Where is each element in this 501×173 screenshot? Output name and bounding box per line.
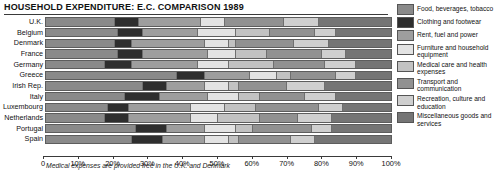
legend-item: Transport and communication [397,78,501,93]
bar-segment [305,93,336,100]
bar-segment [356,72,391,79]
bar-row: Luxembourg [0,102,396,112]
stacked-bar [45,60,392,69]
bar-segment [239,136,291,143]
bar-segment [284,18,319,25]
bar-segment [205,72,250,79]
axis-tick-label: 80% [314,159,329,168]
bar-segment [250,72,278,79]
axis-tick-label: 70% [279,159,294,168]
bar-segment [208,93,239,100]
bar-segment [46,82,143,89]
bar-segment [274,61,326,68]
legend-swatch [397,78,414,89]
bar-segment [236,29,271,36]
bar-segment [319,18,391,25]
bar-segment [229,40,236,47]
legend-item: Recreation, culture and education [397,95,501,110]
bar-row-label: Belgium [0,28,45,38]
bar-segment [315,136,391,143]
bar-segment [277,72,291,79]
bar-segment [167,82,205,89]
bar-segment [239,93,260,100]
axis-tick-label: 0 [41,159,45,168]
bar-row-label: Denmark [0,38,45,48]
bar-segment [239,82,287,89]
bar-segment [143,82,167,89]
bar-row: Belgium [0,28,396,38]
bar-segment [143,50,209,57]
bar-segment [332,114,391,121]
bar-row-label: Portugal [0,124,45,134]
bar-segment [236,40,295,47]
bar-segment [46,61,105,68]
bar-segment [298,114,333,121]
bar-row: Italy [0,91,396,101]
legend-item: Furniture and household equipment [397,44,501,59]
bar-segment [346,50,391,57]
bar-segment [315,29,336,36]
legend-swatch [397,30,414,41]
stacked-bar [45,17,392,26]
bar-segment [294,40,329,47]
bar-segment [205,82,229,89]
bar-segment [46,72,177,79]
legend-swatch [397,17,414,28]
bar-segment [132,40,204,47]
bar-row: Portugal [0,123,396,133]
legend-label: Clothing and footwear [417,17,481,25]
bar-segment [319,104,343,111]
bar-segment [108,104,129,111]
stacked-bar [45,124,392,133]
bar-segment [191,114,219,121]
bar-row-label: Spain [0,134,45,144]
bar-segment [205,125,236,132]
stacked-bar [45,103,392,112]
bar-segment [236,50,267,57]
bar-segment [325,82,391,89]
stacked-bar [45,113,392,122]
bar-segment [46,136,132,143]
bar-segment [325,61,356,68]
bar-segment [229,82,239,89]
bar-segment [46,104,108,111]
bar-segment [260,93,305,100]
bar-row-label: Germany [0,60,45,70]
bar-segment [125,93,160,100]
bar-segment [291,136,315,143]
bar-segment [105,114,129,121]
bar-segment [287,82,325,89]
bar-row: France [0,49,396,59]
bar-segment [205,136,229,143]
bar-segment [160,93,208,100]
stacked-bar [45,135,392,144]
bar-segment [343,104,391,111]
bar-rows: U.K.BelgiumDenmarkFranceGermanyGreeceIri… [0,17,396,145]
bar-segment [229,136,239,143]
legend-item: Miscellaneous goods and services [397,112,501,127]
legend-swatch [397,95,414,106]
bar-segment [115,40,132,47]
title-divider [4,14,388,15]
bar-segment [129,114,191,121]
stacked-bar [45,49,392,58]
bar-segment [236,125,253,132]
bar-segment [201,18,225,25]
bar-segment [253,125,312,132]
bar-segment [129,104,191,111]
bar-segment [132,61,198,68]
axis-tick-label: 60% [244,159,259,168]
bar-segment [46,114,105,121]
bar-segment [208,50,236,57]
bar-segment [322,50,346,57]
bar-segment [267,50,322,57]
stacked-bar [45,39,392,48]
chart-page: HOUSEHOLD EXPENDITURE: E.C. COMPARISON 1… [0,0,501,173]
stacked-bar [45,28,392,37]
legend-item: Rent, fuel and power [397,30,501,41]
bar-row: Netherlands [0,113,396,123]
bar-row: U.K. [0,17,396,27]
bar-segment [136,125,167,132]
bar-segment [167,125,205,132]
legend-label: Furniture and household equipment [417,44,499,59]
